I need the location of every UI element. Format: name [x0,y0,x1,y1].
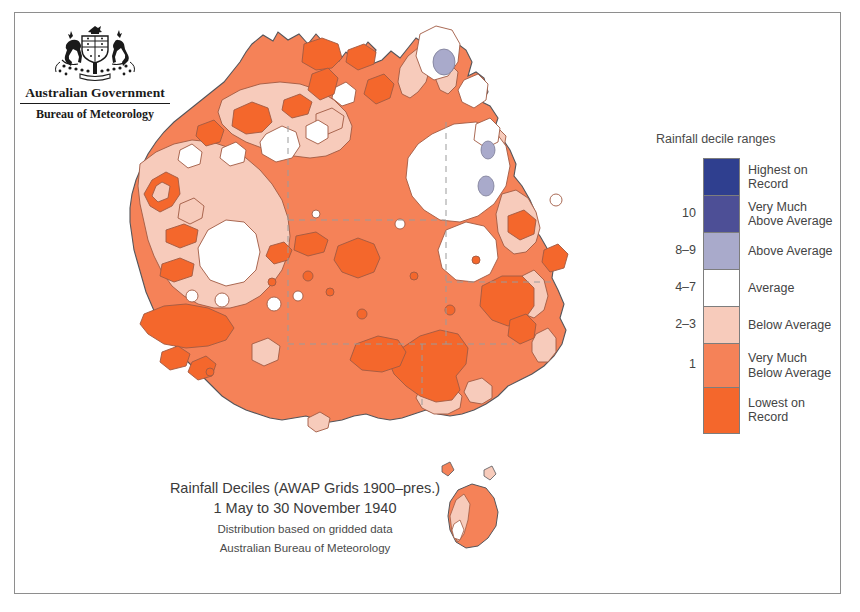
australian-coat-of-arms-icon [20,22,170,84]
legend-row: 8–9Above Average [650,232,840,269]
legend-title: Rainfall decile ranges [656,132,840,146]
legend-class-label: Above Average [748,244,844,259]
caption-line-2: 1 May to 30 November 1940 [110,498,500,518]
legend-row: Lowest onRecord [650,387,840,432]
legend-class-label: Lowest onRecord [748,396,844,425]
legend-row: 10Very MuchAbove Average [650,195,840,232]
caption-line-1: Rainfall Deciles (AWAP Grids 1900–pres.) [110,478,500,498]
legend-row: 2–3Below Average [650,306,840,343]
legend-decile-label: 8–9 [650,243,696,257]
caption-line-4: Australian Bureau of Meteorology [110,541,500,557]
branding-block: Australian Government Bureau of Meteorol… [20,22,170,122]
legend-row: Highest onRecord [650,158,840,195]
legend-decile-label: 4–7 [650,280,696,294]
legend-class-label: Very MuchAbove Average [748,200,844,229]
government-line: Australian Government [20,85,170,104]
legend-class-label: Very MuchBelow Average [748,351,844,380]
legend-class-label: Highest onRecord [748,163,844,192]
legend-class-label: Below Average [748,318,844,333]
legend-decile-label: 2–3 [650,317,696,331]
caption-line-3: Distribution based on gridded data [110,522,500,538]
screenshot-root: Australian Government Bureau of Meteorol… [0,0,860,612]
agency-line: Bureau of Meteorology [20,107,170,122]
legend-body: Highest onRecord10Very MuchAbove Average… [650,158,840,438]
legend-decile-label: 10 [650,206,696,220]
legend-class-label: Average [748,281,844,296]
legend: Rainfall decile ranges Highest onRecord1… [650,132,840,438]
map-caption: Rainfall Deciles (AWAP Grids 1900–pres.)… [110,478,500,557]
legend-decile-label: 1 [650,357,696,371]
bass-strait-islands [442,462,454,476]
legend-row: 4–7Average [650,269,840,306]
legend-row: 1Very MuchBelow Average [650,343,840,387]
